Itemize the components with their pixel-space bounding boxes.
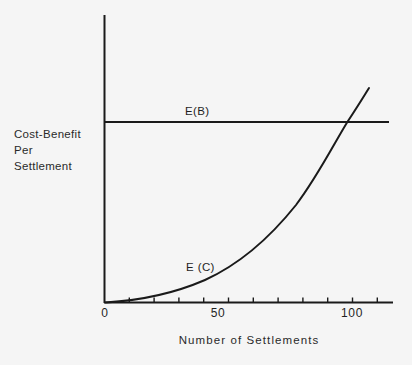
y-axis-label-line-2: Per — [14, 142, 106, 158]
x-axis-label: Number of Settlements — [104, 334, 394, 346]
series-curve-ec — [106, 88, 370, 303]
y-axis-label-line-1: Cost-Benefit — [14, 126, 106, 142]
series-annotation-eb: E(B) — [185, 105, 210, 117]
y-axis-label-line-3: Settlement — [14, 158, 106, 174]
x-tick-label-0: 0 — [96, 306, 114, 320]
x-tick-label-100: 100 — [337, 306, 367, 320]
y-axis-label: Cost-Benefit Per Settlement — [14, 126, 106, 174]
chart-figure: Cost-Benefit Per Settlement Number of Se… — [0, 0, 412, 365]
series-annotation-ec: E (C) — [186, 261, 215, 273]
x-tick-label-50: 50 — [206, 306, 230, 320]
